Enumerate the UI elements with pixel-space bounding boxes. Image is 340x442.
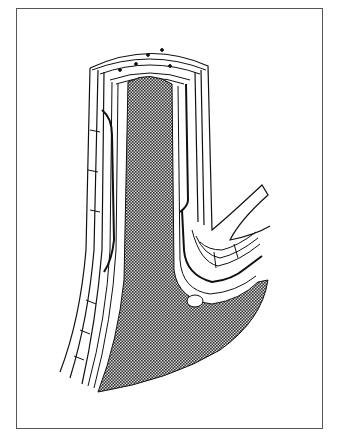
vessel-left-layers (74, 82, 118, 388)
branch-cross-section (187, 295, 203, 307)
vessel-right-layers (178, 84, 262, 294)
vessel-illustration (0, 0, 340, 442)
